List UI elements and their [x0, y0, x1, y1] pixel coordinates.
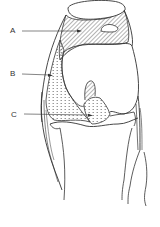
region-a-opening — [101, 24, 118, 32]
tibia-right-edge — [122, 128, 132, 200]
right-ligament — [138, 96, 140, 150]
fibula-right-edge — [144, 152, 147, 206]
knee-joint-diagram — [0, 0, 160, 227]
label-a: A — [10, 27, 15, 35]
label-c: C — [11, 111, 17, 119]
joint-line-lower — [50, 124, 60, 129]
tibia-left-edge — [60, 128, 65, 200]
region-b-dotted — [46, 40, 90, 122]
label-b: B — [10, 70, 15, 78]
right-ligament-2 — [136, 104, 138, 150]
leader-b — [22, 74, 53, 77]
fibula-left-edge — [128, 150, 140, 204]
